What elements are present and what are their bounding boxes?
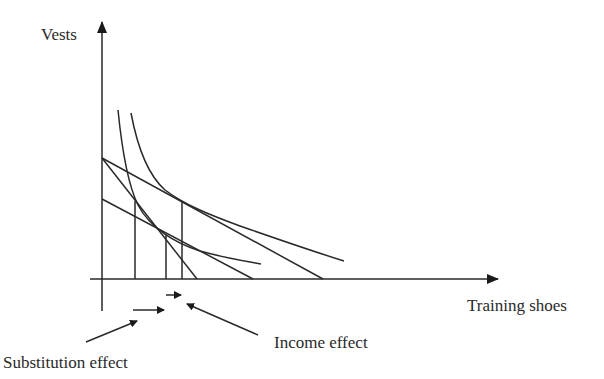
compensated-budget-line — [102, 199, 253, 279]
x-axis-label: Training shoes — [467, 297, 567, 314]
income-effect-label: Income effect — [274, 334, 368, 351]
substitution-effect-label: Substitution effect — [3, 354, 128, 371]
indifference-diagram — [0, 0, 604, 379]
y-axis-label: Vests — [41, 26, 77, 43]
substitution-pointer-arrow — [86, 321, 137, 342]
income-pointer-arrow — [187, 304, 258, 335]
lower-indifference-curve — [118, 110, 261, 264]
higher-indifference-curve — [131, 113, 344, 261]
